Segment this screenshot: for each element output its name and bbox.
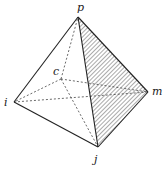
edge-c-i [14, 79, 61, 102]
vertex-label-i: i [4, 96, 8, 109]
vertex-label-p: p [77, 1, 84, 14]
vertex-label-c: c [53, 65, 59, 78]
edge-c-p [61, 17, 78, 79]
pyramid-diagram: p c i m j [0, 0, 168, 173]
vertex-label-j: j [91, 153, 98, 166]
vertex-label-m: m [152, 85, 162, 98]
edge-p-i [14, 17, 78, 102]
edge-i-j [14, 102, 98, 147]
